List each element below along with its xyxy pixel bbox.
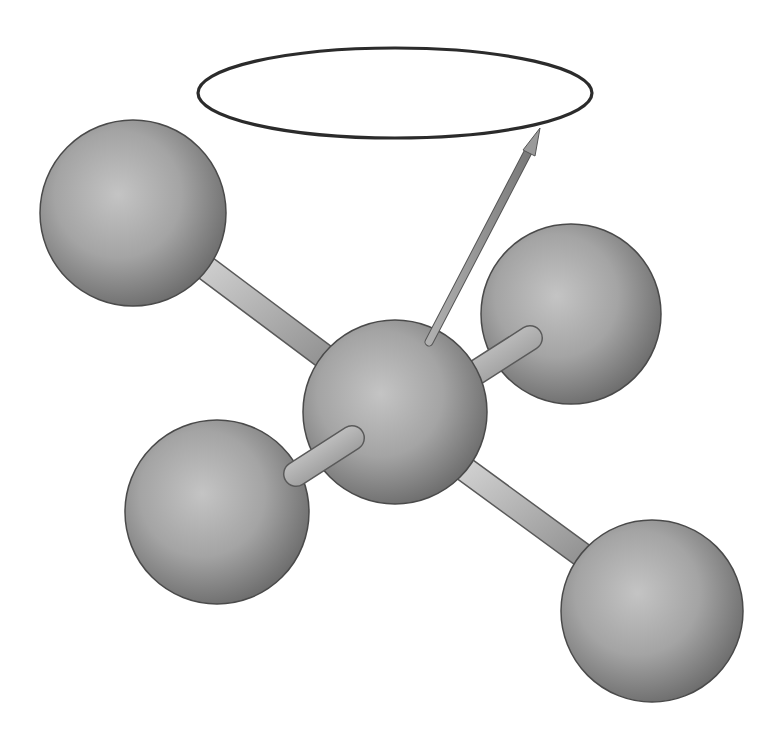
atom-lower-right bbox=[561, 520, 743, 702]
atom-upper-left bbox=[40, 120, 226, 306]
atom-central bbox=[303, 320, 487, 504]
arrow-head-icon bbox=[523, 128, 540, 156]
molecule-diagram bbox=[0, 0, 780, 743]
atom-lower-left bbox=[125, 420, 309, 604]
precession-cone-ellipse bbox=[198, 48, 592, 138]
atom-upper-right bbox=[481, 224, 661, 404]
bond-upper-left bbox=[190, 256, 345, 372]
bond-lower-right bbox=[455, 462, 600, 568]
